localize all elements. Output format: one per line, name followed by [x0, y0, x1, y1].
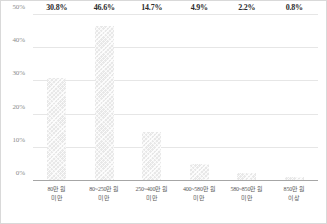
bar[interactable]: 14.7%	[142, 132, 161, 181]
x-axis-labels: 80만 원미만80~250만 원미만250~400만 원미만400~580만 원…	[33, 185, 318, 203]
bar-slot: 4.9%	[176, 15, 224, 180]
bar[interactable]: 0.8%	[285, 177, 304, 180]
bar-slot: 30.8%	[33, 15, 81, 180]
x-axis-category-label: 250~400만 원미만	[128, 185, 176, 203]
bar-value-label: 0.8%	[286, 3, 303, 12]
bar[interactable]: 4.9%	[190, 164, 209, 180]
bar-value-label: 4.9%	[191, 3, 208, 12]
y-axis-tick-label: 50%	[12, 3, 25, 11]
category-label-line2: 미만	[224, 194, 270, 203]
category-label-line1: 850만 원	[284, 186, 305, 192]
bar-slot: 46.6%	[81, 15, 129, 180]
bar-chart-figure: 0%10%20%30%40%50% 30.8%46.6%14.7%4.9%2.2…	[0, 0, 327, 224]
x-axis-baseline	[33, 180, 318, 181]
bar[interactable]: 2.2%	[237, 173, 256, 180]
y-axis-tick-label: 20%	[12, 103, 25, 111]
x-axis-category-label: 580~850만 원미만	[223, 185, 271, 203]
bar-value-label: 30.8%	[46, 3, 67, 12]
bar-value-label: 2.2%	[238, 3, 255, 12]
category-label-line2: 미만	[82, 194, 128, 203]
x-axis-category-label: 400~580만 원미만	[176, 185, 224, 203]
category-label-line1: 400~580만 원	[183, 186, 216, 192]
category-label-line1: 80만 원	[47, 186, 66, 192]
y-axis-tick-label: 30%	[12, 69, 25, 77]
category-label-line1: 80~250만 원	[89, 186, 119, 192]
x-axis-category-label: 80만 원미만	[33, 185, 81, 203]
bar[interactable]: 30.8%	[47, 78, 66, 180]
category-label-line1: 250~400만 원	[135, 186, 168, 192]
plot-area: 0%10%20%30%40%50% 30.8%46.6%14.7%4.9%2.2…	[33, 15, 318, 181]
category-label-line1: 580~850만 원	[230, 186, 263, 192]
bar-slot: 14.7%	[128, 15, 176, 180]
bar-slot: 2.2%	[223, 15, 271, 180]
bar-value-label: 14.7%	[141, 3, 162, 12]
x-axis-category-label: 80~250만 원미만	[81, 185, 129, 203]
bar-slot: 0.8%	[271, 15, 319, 180]
bars-group: 30.8%46.6%14.7%4.9%2.2%0.8%	[33, 15, 318, 180]
bar-value-label: 46.6%	[94, 3, 115, 12]
y-axis-tick-label: 40%	[12, 36, 25, 44]
category-label-line2: 미만	[177, 194, 223, 203]
category-label-line2: 미만	[34, 194, 80, 203]
category-label-line2: 이상	[272, 194, 318, 203]
y-axis-tick-label: 10%	[12, 136, 25, 144]
category-label-line2: 미만	[129, 194, 175, 203]
y-axis-tick-label: 0%	[16, 169, 25, 177]
bar[interactable]: 46.6%	[95, 26, 114, 180]
x-axis-category-label: 850만 원이상	[271, 185, 319, 203]
